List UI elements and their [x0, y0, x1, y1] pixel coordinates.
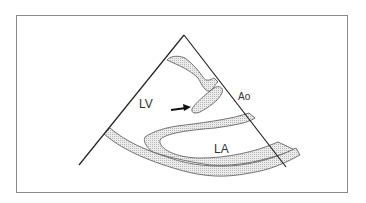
arrow-icon	[171, 104, 191, 111]
label-ao: Ao	[238, 92, 250, 102]
sector-diagram	[0, 0, 366, 203]
posterior-wall	[107, 113, 295, 165]
septum	[167, 56, 218, 91]
label-lv: LV	[139, 98, 153, 110]
label-la: LA	[214, 143, 229, 155]
